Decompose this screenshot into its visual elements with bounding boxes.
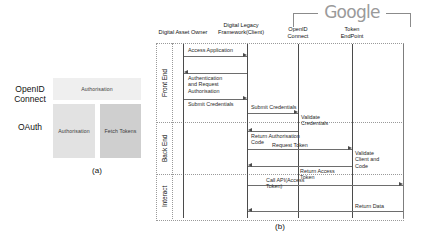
phase-label-interact: Interact — [156, 174, 172, 219]
phase-label-front-end: Front End — [156, 43, 172, 122]
arrowhead-return-authorisation-code — [248, 128, 252, 132]
msg-line-return-data — [248, 211, 403, 212]
caption-panel-a: (a) — [53, 166, 141, 175]
msg-line-return-authorisation-code — [248, 131, 298, 132]
phase-separator-1 — [156, 122, 402, 123]
box-oauth-authorisation: Authorisation — [53, 104, 95, 158]
row-label-oauth: OAuth — [8, 122, 52, 132]
arrowhead-authentication-request — [184, 70, 188, 74]
box-oidc-authorisation: Authorisation — [53, 78, 141, 100]
phase-label-divider — [172, 43, 173, 219]
msg-label-request-token: Request Token — [272, 142, 332, 148]
arrowhead-submit-credentials-oidc — [294, 110, 298, 114]
actor-header-token-endpoint: Token EndPoint — [325, 26, 379, 39]
panel-b: Google Digital Asset Owner Digital Legac… — [150, 0, 424, 242]
actor-header-openid-connect: OpenID Connect — [271, 26, 325, 39]
panel-a: OpenID Connect OAuth Authorisation Autho… — [0, 0, 150, 242]
msg-label-call-api-access-token: Call API(Access Token) — [266, 177, 326, 190]
phase-label-back-end: Back End — [156, 122, 172, 174]
arrowhead-request-token — [348, 146, 352, 150]
msg-line-submit-credentials-owner — [184, 99, 247, 100]
box-oauth-fetch-tokens: Fetch Tokens — [100, 104, 141, 158]
lifeline-frame-right-edge — [403, 44, 404, 218]
lifeline-token-endpoint — [352, 44, 353, 218]
arrowhead-access-application — [243, 53, 247, 57]
msg-label-validate-credentials: Validate Credentials — [301, 114, 347, 127]
msg-label-submit-credentials-owner: Submit Credentials — [188, 101, 248, 107]
msg-label-submit-credentials-oidc: Submit Credentials — [251, 104, 303, 110]
msg-label-validate-client-and-code: Validate Client and Code — [355, 150, 400, 169]
msg-line-submit-credentials-oidc — [248, 113, 298, 114]
msg-line-access-application — [184, 56, 247, 57]
lifeline-openid-connect — [298, 44, 299, 218]
figure-root: OpenID Connect OAuth Authorisation Autho… — [0, 0, 424, 242]
msg-line-request-token — [248, 149, 352, 150]
caption-panel-b: (b) — [210, 222, 350, 231]
msg-label-return-data: Return Data — [355, 203, 405, 209]
msg-label-authentication-request: Authentication and Request Authorisation — [188, 75, 248, 94]
row-label-openid-connect: OpenID Connect — [8, 84, 52, 104]
sequence-diagram-frame — [156, 43, 404, 221]
msg-label-access-application: Access Application — [188, 47, 248, 53]
arrowhead-submit-credentials-owner — [243, 96, 247, 100]
msg-line-authentication-request — [184, 73, 247, 74]
arrowhead-return-access-token — [248, 163, 252, 167]
phase-separator-2 — [156, 174, 402, 175]
google-wordmark: Google — [318, 1, 386, 23]
arrowhead-call-api-access-token — [399, 182, 403, 186]
actor-header-digital-legacy-framework-client: Digital Legacy Framework(Client) — [204, 22, 278, 35]
msg-line-return-access-token — [248, 166, 352, 167]
arrowhead-return-data — [248, 208, 252, 212]
